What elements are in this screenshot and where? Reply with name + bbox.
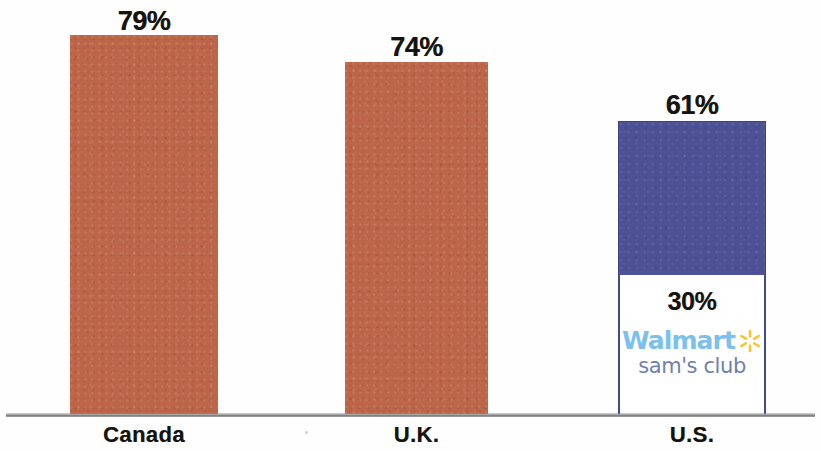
bar-us-segment-walmart[interactable]: 30% Walmart [618,275,766,416]
bar-us-segment-top[interactable] [618,121,766,275]
walmart-spark-icon [738,329,762,353]
bar-us-stack: 30% Walmart [618,121,766,416]
scan-speck [305,431,308,434]
value-label-canada: 79% [70,6,218,37]
bar-group-uk: 74% U.K. [345,0,488,451]
walmart-sams-club-logo: Walmart [622,328,762,377]
value-label-us-walmart: 30% [668,287,717,316]
sams-club-wordmark: sam's club [638,356,746,377]
category-label-us: U.S. [618,422,766,448]
value-label-us: 61% [618,90,766,121]
bar-group-canada: 79% Canada [70,0,218,451]
value-label-uk: 74% [345,32,488,63]
category-label-canada: Canada [70,422,218,448]
x-axis-line [6,414,815,417]
walmart-wordmark-row: Walmart [622,328,762,353]
bar-canada[interactable] [70,35,218,416]
category-label-uk: U.K. [345,422,488,448]
bar-group-us: 61% 30% Walmart [618,0,766,451]
walmart-wordmark: Walmart [622,328,735,353]
bar-uk[interactable] [345,62,488,416]
bar-chart: 79% Canada 74% U.K. 61% 30% Walmart [0,0,821,451]
